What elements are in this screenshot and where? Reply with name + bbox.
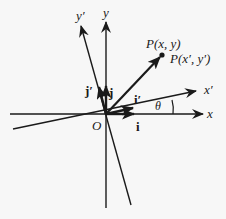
y-axis-label: y bbox=[101, 5, 109, 20]
origin-label: O bbox=[92, 118, 102, 133]
angle-arc bbox=[172, 100, 173, 114]
point-xpyp-label: P(x′, y′) bbox=[169, 51, 210, 66]
unit-j-prime-label: j′ bbox=[84, 83, 93, 98]
x-axis-label: x bbox=[206, 106, 213, 121]
unit-i-prime-label: i′ bbox=[134, 92, 141, 107]
unit-j-label: j bbox=[108, 85, 113, 100]
rotated-axes-diagram: x y x′ y′ O P(x, y) P(x′, y′) i j i′ j′ … bbox=[0, 0, 226, 219]
angle-theta-label: θ bbox=[155, 99, 161, 113]
position-vector bbox=[106, 57, 160, 114]
y-prime-axis-label: y′ bbox=[74, 8, 85, 23]
x-prime-axis-label: x′ bbox=[203, 82, 213, 97]
diagram-canvas: x y x′ y′ O P(x, y) P(x′, y′) i j i′ j′ … bbox=[0, 0, 226, 219]
point-xy-label: P(x, y) bbox=[145, 36, 181, 51]
unit-i-label: i bbox=[136, 119, 140, 134]
point-p bbox=[159, 52, 164, 57]
